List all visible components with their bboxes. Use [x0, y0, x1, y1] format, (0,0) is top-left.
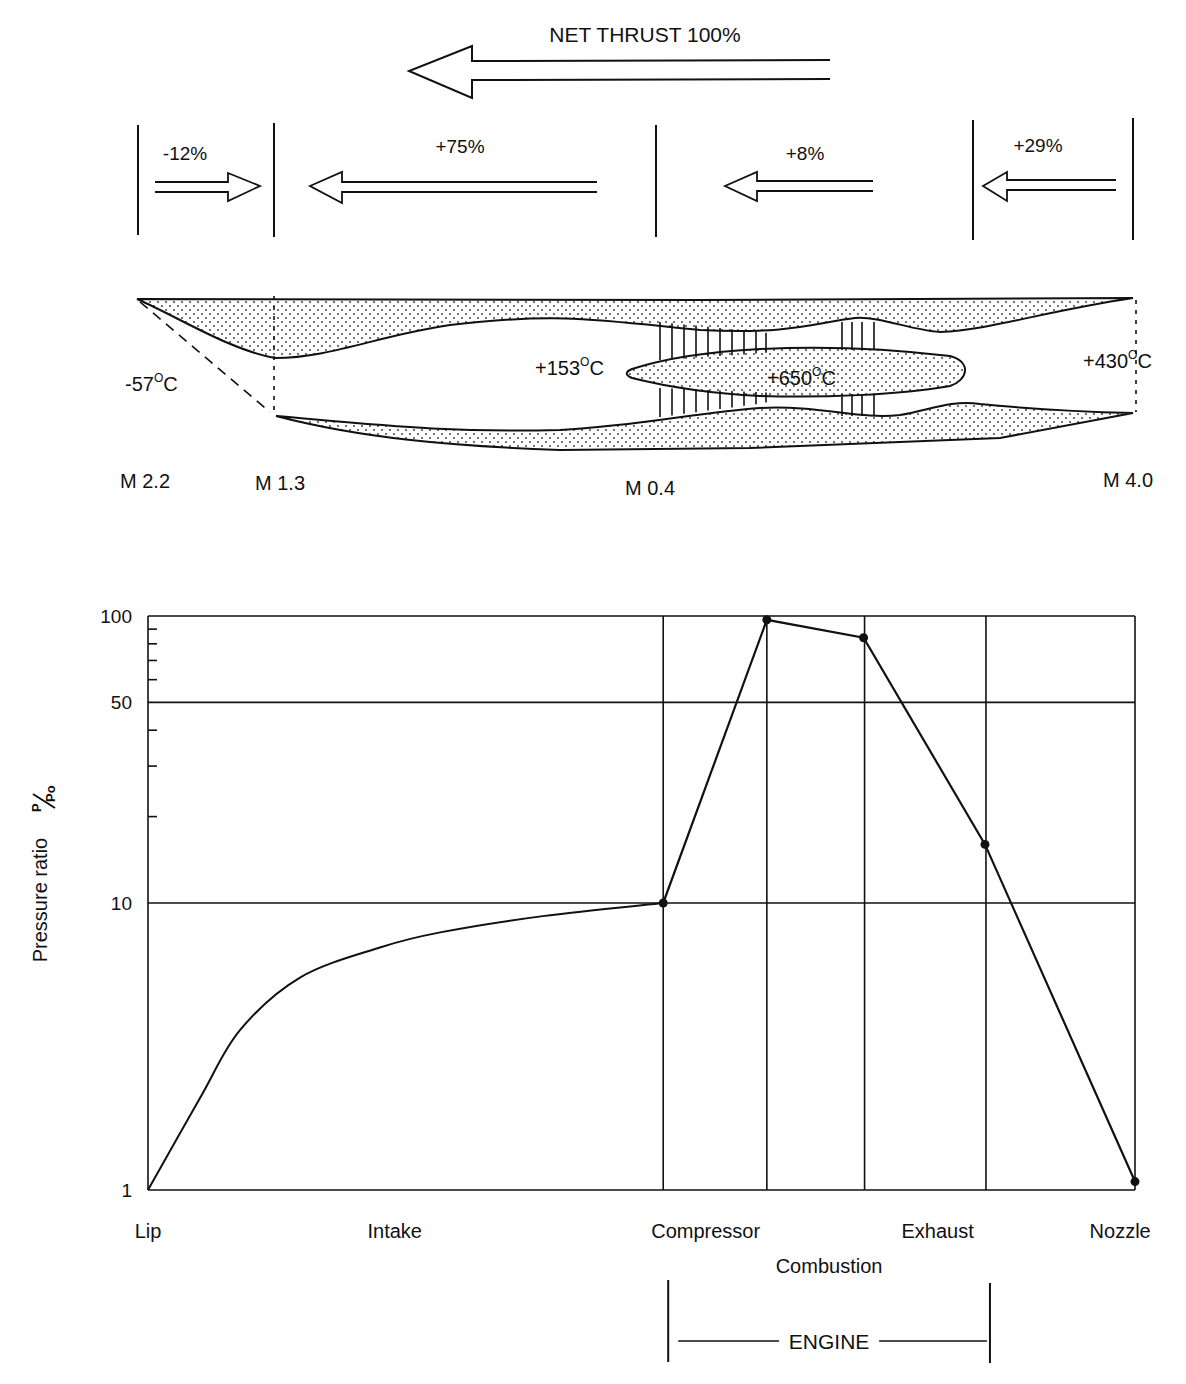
- x-category-label: Combustion: [776, 1255, 883, 1277]
- pressure-ratio-chart: 11050100 LipIntakeCompressorCombustionEx…: [0, 0, 1186, 1384]
- data-point: [659, 899, 668, 908]
- engine-pressure-line: [663, 620, 1135, 1182]
- engine-label: ENGINE: [789, 1330, 870, 1353]
- y-tick-label: 50: [111, 692, 132, 713]
- x-category-label: Compressor: [651, 1220, 760, 1242]
- x-category-label: Lip: [135, 1220, 162, 1242]
- y-axis-ticks: [148, 629, 157, 816]
- chart-grid: [148, 616, 1135, 1190]
- y-tick-label: 10: [111, 893, 132, 914]
- y-axis-tick-labels: 11050100: [100, 606, 132, 1201]
- pressure-series: [148, 620, 1135, 1190]
- data-point: [980, 840, 989, 849]
- engine-bracket: ENGINE: [668, 1280, 990, 1363]
- x-category-label: Nozzle: [1090, 1220, 1151, 1242]
- data-point: [1131, 1177, 1140, 1186]
- y-axis-fraction-denominator: Po: [43, 785, 58, 802]
- y-axis-title: Pressure ratio: [29, 838, 51, 963]
- x-category-label: Intake: [368, 1220, 422, 1242]
- intake-pressure-curve: [148, 903, 663, 1190]
- data-point: [859, 633, 868, 642]
- x-category-labels: LipIntakeCompressorCombustionExhaustNozz…: [135, 1220, 1151, 1277]
- data-point: [762, 615, 771, 624]
- y-tick-label: 100: [100, 606, 132, 627]
- y-tick-label: 1: [121, 1180, 132, 1201]
- y-axis-label: Pressure ratio P Po: [29, 785, 58, 962]
- y-axis-fraction-numerator: P: [29, 803, 44, 812]
- x-category-label: Exhaust: [901, 1220, 974, 1242]
- pressure-points: [659, 615, 1140, 1186]
